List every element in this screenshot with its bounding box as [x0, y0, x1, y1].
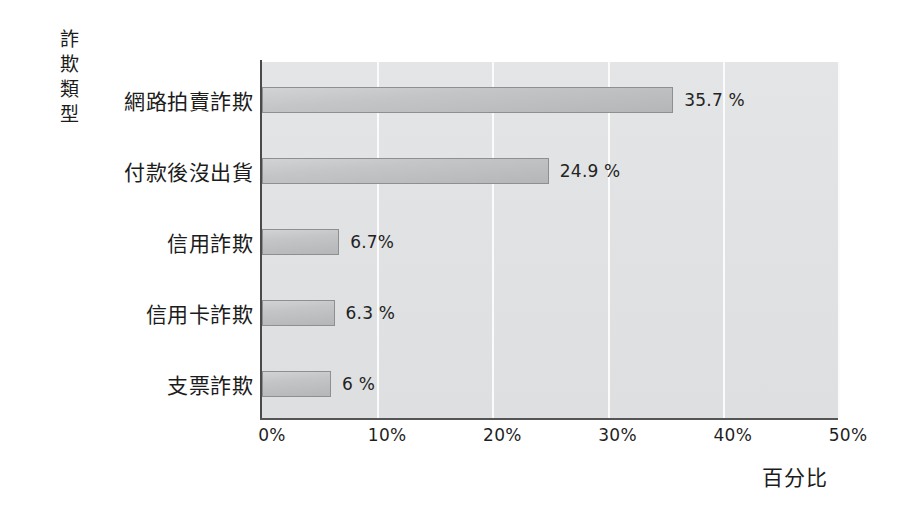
x-tick-label: 30%	[598, 425, 637, 445]
x-tick-label: 40%	[713, 425, 752, 445]
bar-value-label: 6.7%	[350, 232, 394, 252]
category-label-group: 網路拍賣詐欺付款後沒出貨信用詐欺信用卡詐欺支票詐欺	[0, 0, 253, 510]
x-axis-title: 百分比	[762, 461, 828, 491]
bar-chart: 詐 欺 類 型 網路拍賣詐欺付款後沒出貨信用詐欺信用卡詐欺支票詐欺 35.7 %…	[0, 0, 901, 510]
bar[interactable]	[262, 87, 673, 113]
bar-value-label: 35.7 %	[684, 90, 745, 110]
y-axis-line	[260, 60, 262, 420]
category-label: 網路拍賣詐欺	[3, 85, 253, 115]
x-tick-label: 20%	[483, 425, 522, 445]
bar-value-label: 6 %	[342, 374, 375, 394]
bar[interactable]	[262, 300, 335, 326]
category-label: 信用詐欺	[3, 227, 253, 257]
bar-row: 35.7 %	[262, 87, 838, 113]
bar-row: 6.7%	[262, 229, 838, 255]
x-tick-label: 10%	[368, 425, 407, 445]
category-label: 支票詐欺	[3, 369, 253, 399]
x-axis-line	[260, 418, 838, 420]
bar-value-label: 24.9 %	[560, 161, 621, 181]
bar[interactable]	[262, 371, 331, 397]
bar-value-label: 6.3 %	[346, 303, 396, 323]
category-label: 信用卡詐欺	[3, 298, 253, 328]
gridline-50%	[838, 62, 840, 418]
bar[interactable]	[262, 158, 549, 184]
bar-row: 24.9 %	[262, 158, 838, 184]
x-tick-label: 50%	[829, 425, 868, 445]
plot-area: 35.7 %24.9 %6.7%6.3 %6 %	[262, 62, 838, 418]
bar-row: 6 %	[262, 371, 838, 397]
x-tick-label: 0%	[258, 425, 286, 445]
category-label: 付款後沒出貨	[3, 156, 253, 186]
bar[interactable]	[262, 229, 339, 255]
bar-row: 6.3 %	[262, 300, 838, 326]
